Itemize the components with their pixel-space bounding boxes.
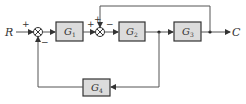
sum1-minus-sign: − [41,37,49,47]
block-g4: G4 [83,79,110,96]
block-g1: G1 [56,22,83,41]
input-label: R [4,26,13,39]
summing-junction-2 [96,28,105,37]
summing-junction-1 [34,28,43,37]
sum1-plus-sign: + [22,19,30,29]
block-g2: G2 [119,22,145,41]
output-label: C [232,26,241,39]
block-diagram: R + − G1 + + − G2 G3 C [0,0,246,104]
block-g3: G3 [174,22,201,41]
sum2-minus-sign: − [106,19,114,29]
